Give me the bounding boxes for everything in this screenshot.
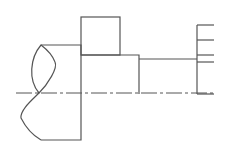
break-line-upper [32, 45, 56, 93]
technical-drawing [0, 0, 229, 153]
middle-block [81, 55, 139, 94]
upper-block [81, 17, 120, 55]
break-line-lower [21, 93, 41, 140]
